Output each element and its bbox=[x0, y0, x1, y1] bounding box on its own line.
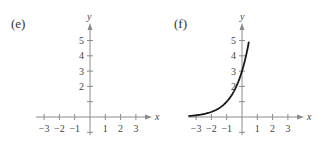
chart-panel-f: (f) x y −3−2−11232345 bbox=[174, 11, 312, 135]
figure: (e) x y −3−2−11232345 (f) x y −3−2−11232… bbox=[0, 0, 330, 149]
x-tick-label: 1 bbox=[103, 123, 108, 134]
ticks-e: −3−2−11232345 bbox=[39, 35, 139, 134]
x-axis-arrow-icon bbox=[297, 115, 304, 120]
x-tick-label: 2 bbox=[270, 123, 275, 134]
x-tick-label: −2 bbox=[54, 123, 65, 134]
y-axis-label-e: y bbox=[86, 11, 92, 22]
y-tick-label: 5 bbox=[231, 35, 236, 46]
y-axis-arrow-icon bbox=[240, 23, 245, 30]
x-tick-label: 3 bbox=[285, 123, 290, 134]
chart-panel-e: (e) x y −3−2−11232345 bbox=[11, 11, 160, 135]
y-axis-label-f: y bbox=[239, 11, 245, 22]
x-tick-label: 1 bbox=[255, 123, 260, 134]
x-tick-label: −1 bbox=[69, 123, 80, 134]
x-axis-arrow-icon bbox=[145, 115, 152, 120]
y-tick-label: 3 bbox=[231, 66, 236, 77]
x-tick-label: 2 bbox=[118, 123, 123, 134]
y-tick-label: 4 bbox=[79, 50, 84, 61]
ticks-f: −3−2−11232345 bbox=[191, 35, 291, 134]
x-tick-label: −3 bbox=[191, 123, 202, 134]
x-tick-label: 3 bbox=[133, 123, 138, 134]
x-axis-label-f: x bbox=[306, 111, 312, 122]
y-axis-arrow-icon bbox=[88, 23, 93, 30]
y-tick-label: 5 bbox=[79, 35, 84, 46]
panel-label-f: (f) bbox=[174, 16, 187, 31]
y-tick-label: 3 bbox=[79, 66, 84, 77]
x-tick-label: −2 bbox=[206, 123, 217, 134]
x-axis-label-e: x bbox=[154, 111, 160, 122]
x-tick-label: −3 bbox=[39, 123, 50, 134]
y-tick-label: 2 bbox=[79, 81, 84, 92]
y-tick-label: 4 bbox=[231, 50, 236, 61]
curve-f bbox=[188, 42, 248, 116]
panel-label-e: (e) bbox=[11, 16, 25, 31]
x-tick-label: −1 bbox=[221, 123, 232, 134]
